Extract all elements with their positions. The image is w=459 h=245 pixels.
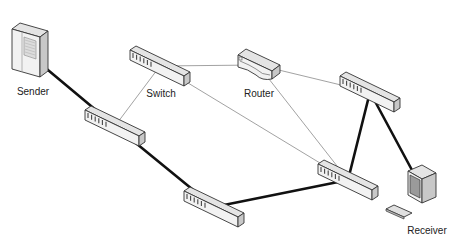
label-receiver: Receiver (407, 225, 446, 236)
router-icon-router (238, 49, 280, 80)
link-switch_b-switch_r (214, 180, 348, 207)
switch-icon-switch_tr (340, 72, 400, 112)
switch-icon-switch_b (184, 187, 244, 227)
network-diagram (0, 0, 459, 245)
label-router: Router (244, 88, 274, 99)
switch-icon-switch_l (85, 106, 145, 146)
server-icon-sender (12, 23, 48, 77)
link-switch_r-switch_tr (348, 92, 370, 180)
switch-icon-switch_r (318, 160, 378, 200)
label-sender: Sender (17, 86, 49, 97)
nodes-layer (12, 23, 436, 227)
link-router-switch_r (258, 65, 348, 180)
workstation-icon-receiver (386, 165, 436, 219)
label-switch_main: Switch (146, 88, 175, 99)
